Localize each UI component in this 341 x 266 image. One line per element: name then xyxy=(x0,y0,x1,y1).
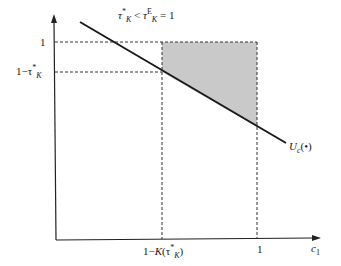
curve-label-u: U xyxy=(289,140,297,152)
y-tick-one: 1 xyxy=(40,37,46,48)
y-tick-lower-prefix: 1−τ xyxy=(16,65,32,77)
title-lt: < xyxy=(131,9,143,21)
diagram-canvas xyxy=(0,0,341,266)
y-tick-lower: 1−τ*K xyxy=(16,66,41,77)
x-tick-left-close: ) xyxy=(180,245,184,257)
y-tick-lower-sub: K xyxy=(36,71,41,80)
y-axis-arrow-icon xyxy=(51,14,57,23)
x-tick-left-k: K xyxy=(155,245,162,257)
x-tick-left-prefix: 1− xyxy=(143,245,155,257)
shaded-region xyxy=(162,42,257,127)
x-axis-label: c1 xyxy=(311,243,320,254)
x-tick-left-open: (τ xyxy=(162,245,170,257)
x-axis-arrow-icon xyxy=(312,235,321,241)
diagram-title: τ*K < τEK = 1 xyxy=(118,10,174,21)
curve-label: Uc(•) xyxy=(289,141,312,152)
x-tick-left: 1−K(τ*K) xyxy=(143,246,183,257)
y-axis xyxy=(54,20,56,240)
x-axis-label-sub: 1 xyxy=(316,248,320,257)
x-tick-one-text: 1 xyxy=(257,243,263,255)
y-tick-one-text: 1 xyxy=(40,36,46,48)
x-tick-one: 1 xyxy=(257,244,263,255)
x-axis xyxy=(56,238,314,240)
title-eq: = 1 xyxy=(157,9,174,21)
curve-label-arg: (•) xyxy=(301,140,312,152)
